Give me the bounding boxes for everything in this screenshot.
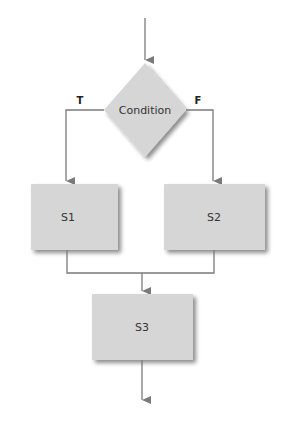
condition-decision: Condition — [104, 63, 186, 157]
step-s2: S2 — [164, 184, 265, 250]
step-s3: S3 — [92, 294, 193, 360]
true-branch-line — [66, 110, 104, 181]
false-label: F — [195, 95, 202, 106]
merge-line — [67, 250, 214, 273]
false-branch-line — [186, 110, 213, 181]
s1-label: S1 — [61, 211, 75, 224]
condition-label: Condition — [119, 104, 172, 117]
true-label: T — [77, 95, 84, 106]
flowchart-canvas: Condition T F S1 S2 S3 — [0, 0, 285, 424]
s2-label: S2 — [207, 211, 221, 224]
step-s1: S1 — [31, 184, 118, 250]
s3-label: S3 — [135, 321, 149, 334]
